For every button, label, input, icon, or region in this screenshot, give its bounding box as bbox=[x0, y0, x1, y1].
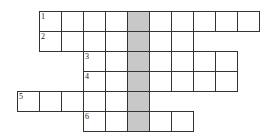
clue-number: 6 bbox=[85, 112, 89, 121]
grid-cell[interactable]: 5 bbox=[17, 91, 40, 112]
shaded-cell[interactable] bbox=[127, 51, 150, 72]
shaded-cell[interactable] bbox=[127, 71, 150, 92]
clue-number: 2 bbox=[41, 32, 45, 41]
shaded-cell[interactable] bbox=[127, 31, 150, 52]
grid-cell[interactable] bbox=[105, 11, 128, 32]
grid-cell[interactable] bbox=[193, 51, 216, 72]
grid-cell[interactable]: 6 bbox=[83, 111, 106, 132]
grid-cell[interactable] bbox=[171, 111, 194, 132]
grid-cell[interactable] bbox=[149, 71, 172, 92]
grid-cell[interactable] bbox=[215, 71, 238, 92]
clue-number: 1 bbox=[41, 12, 45, 21]
grid-cell[interactable] bbox=[83, 31, 106, 52]
grid-cell[interactable] bbox=[39, 91, 62, 112]
grid-cell[interactable] bbox=[171, 51, 194, 72]
grid-cell[interactable] bbox=[149, 111, 172, 132]
grid-cell[interactable] bbox=[61, 91, 84, 112]
grid-cell[interactable] bbox=[61, 31, 84, 52]
grid-cell[interactable] bbox=[105, 111, 128, 132]
clue-number: 3 bbox=[85, 52, 89, 61]
clue-number: 5 bbox=[19, 92, 23, 101]
grid-cell[interactable]: 2 bbox=[39, 31, 62, 52]
grid-cell[interactable] bbox=[149, 51, 172, 72]
grid-cell[interactable] bbox=[171, 11, 194, 32]
grid-cell[interactable] bbox=[149, 31, 172, 52]
grid-cell[interactable] bbox=[171, 31, 194, 52]
shaded-cell[interactable] bbox=[127, 111, 150, 132]
grid-cell[interactable] bbox=[171, 71, 194, 92]
clue-number: 4 bbox=[85, 72, 89, 81]
grid-cell[interactable] bbox=[105, 31, 128, 52]
grid-cell[interactable] bbox=[61, 11, 84, 32]
shaded-cell[interactable] bbox=[127, 11, 150, 32]
shaded-cell[interactable] bbox=[127, 91, 150, 112]
grid-cell[interactable] bbox=[193, 11, 216, 32]
grid-cell[interactable] bbox=[149, 11, 172, 32]
grid-cell[interactable]: 3 bbox=[83, 51, 106, 72]
grid-cell[interactable]: 1 bbox=[39, 11, 62, 32]
grid-cell[interactable] bbox=[83, 91, 106, 112]
grid-cell[interactable] bbox=[215, 51, 238, 72]
grid-cell[interactable] bbox=[83, 11, 106, 32]
grid-cell[interactable] bbox=[237, 11, 260, 32]
grid-cell[interactable] bbox=[105, 51, 128, 72]
grid-cell[interactable] bbox=[215, 11, 238, 32]
grid-cell[interactable] bbox=[105, 91, 128, 112]
grid-cell[interactable] bbox=[105, 71, 128, 92]
grid-cell[interactable]: 4 bbox=[83, 71, 106, 92]
grid-cell[interactable] bbox=[193, 71, 216, 92]
